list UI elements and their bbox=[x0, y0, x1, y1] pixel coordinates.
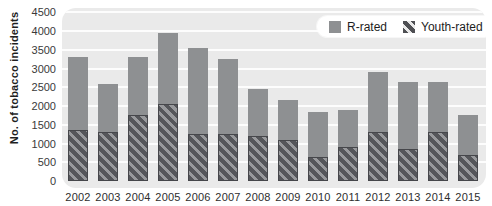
legend-label-r-rated: R-rated bbox=[347, 20, 387, 34]
y-tick-label-4500: 4500 bbox=[16, 7, 56, 18]
x-tick-label-2005: 2005 bbox=[151, 191, 185, 203]
bar-youth-rated-2003 bbox=[98, 132, 118, 181]
bar-r-rated-2003 bbox=[98, 84, 118, 133]
bar-youth-rated-2010 bbox=[308, 157, 328, 181]
legend-item-r-rated: R-rated bbox=[329, 20, 387, 34]
youth-rated-swatch-icon bbox=[403, 21, 415, 33]
legend-label-youth-rated: Youth-rated bbox=[421, 20, 483, 34]
bar-r-rated-2007 bbox=[218, 59, 238, 134]
x-tick-label-2015: 2015 bbox=[451, 191, 485, 203]
gridline-2000 bbox=[62, 105, 486, 107]
gridline-1000 bbox=[62, 143, 486, 145]
bar-youth-rated-2004 bbox=[128, 115, 148, 181]
bar-r-rated-2005 bbox=[158, 33, 178, 104]
bar-youth-rated-2002 bbox=[68, 130, 88, 181]
y-tick-label-4000: 4000 bbox=[16, 26, 56, 37]
x-tick-label-2011: 2011 bbox=[331, 191, 365, 203]
y-tick-label-2000: 2000 bbox=[16, 101, 56, 112]
bar-youth-rated-2007 bbox=[218, 134, 238, 181]
bar-youth-rated-2014 bbox=[428, 132, 448, 181]
bar-r-rated-2015 bbox=[458, 115, 478, 154]
bar-r-rated-2006 bbox=[188, 48, 208, 134]
x-tick-label-2009: 2009 bbox=[271, 191, 305, 203]
bar-r-rated-2010 bbox=[308, 112, 328, 157]
y-tick-label-0: 0 bbox=[16, 176, 56, 187]
gridline-3000 bbox=[62, 68, 486, 70]
bar-r-rated-2004 bbox=[128, 57, 148, 115]
bar-youth-rated-2006 bbox=[188, 134, 208, 181]
bar-youth-rated-2008 bbox=[248, 136, 268, 181]
x-tick-label-2003: 2003 bbox=[91, 191, 125, 203]
gridline-3500 bbox=[62, 49, 486, 51]
x-tick-label-2013: 2013 bbox=[391, 191, 425, 203]
bar-youth-rated-2011 bbox=[338, 147, 358, 181]
x-tick-label-2014: 2014 bbox=[421, 191, 455, 203]
y-tick-label-1000: 1000 bbox=[16, 139, 56, 150]
bar-youth-rated-2005 bbox=[158, 104, 178, 181]
bar-r-rated-2014 bbox=[428, 82, 448, 133]
x-tick-label-2008: 2008 bbox=[241, 191, 275, 203]
x-tick-label-2002: 2002 bbox=[61, 191, 95, 203]
gridline-500 bbox=[62, 161, 486, 163]
r-rated-swatch-icon bbox=[329, 21, 341, 33]
legend-item-youth-rated: Youth-rated bbox=[403, 20, 483, 34]
gridline-2500 bbox=[62, 86, 486, 88]
bar-r-rated-2013 bbox=[398, 82, 418, 150]
y-tick-label-2500: 2500 bbox=[16, 82, 56, 93]
bar-r-rated-2009 bbox=[278, 100, 298, 139]
tobacco-incidents-chart: No. of tobacco incidents 050010001500200… bbox=[0, 0, 492, 206]
gridline-1500 bbox=[62, 124, 486, 126]
bar-r-rated-2002 bbox=[68, 57, 88, 130]
bar-youth-rated-2013 bbox=[398, 149, 418, 181]
y-tick-label-3500: 3500 bbox=[16, 45, 56, 56]
bar-r-rated-2012 bbox=[368, 72, 388, 132]
x-tick-label-2006: 2006 bbox=[181, 191, 215, 203]
bar-youth-rated-2015 bbox=[458, 155, 478, 181]
bar-youth-rated-2012 bbox=[368, 132, 388, 181]
bar-r-rated-2008 bbox=[248, 89, 268, 136]
gridline-4500 bbox=[62, 11, 486, 13]
x-tick-label-2007: 2007 bbox=[211, 191, 245, 203]
y-tick-label-500: 500 bbox=[16, 157, 56, 168]
y-tick-label-1500: 1500 bbox=[16, 120, 56, 131]
bar-r-rated-2011 bbox=[338, 110, 358, 148]
legend: R-rated Youth-rated bbox=[317, 16, 492, 37]
x-tick-label-2012: 2012 bbox=[361, 191, 395, 203]
x-tick-label-2010: 2010 bbox=[301, 191, 335, 203]
x-tick-label-2004: 2004 bbox=[121, 191, 155, 203]
bar-youth-rated-2009 bbox=[278, 140, 298, 181]
y-tick-label-3000: 3000 bbox=[16, 64, 56, 75]
